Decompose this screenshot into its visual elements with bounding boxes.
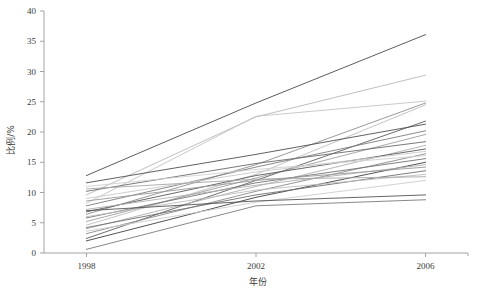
x-axis-tick-label: 1998 (77, 261, 96, 271)
y-axis-tick-label: 20 (27, 127, 37, 137)
x-axis-tick-label: 2006 (417, 261, 436, 271)
y-axis-tick-label: 0 (32, 248, 37, 258)
y-axis-tick-label: 30 (27, 67, 37, 77)
y-axis-tick-label: 25 (27, 97, 37, 107)
x-axis-title: 年份 (249, 276, 267, 287)
chart-container: 0510152025303540 199820022006 比例/% 年份 (0, 0, 477, 295)
y-axis-tick-label: 10 (27, 188, 37, 198)
y-axis-tick-label: 35 (27, 36, 37, 46)
y-axis-tick-label: 15 (27, 157, 37, 167)
y-axis-tick-label: 5 (32, 218, 37, 228)
slopegraph-line-chart: 0510152025303540 199820022006 比例/% 年份 (0, 0, 477, 295)
y-axis-tick-label: 40 (27, 6, 37, 16)
y-axis-title: 比例/% (5, 125, 16, 155)
x-axis-tick-label: 2002 (247, 261, 265, 271)
chart-background (0, 0, 477, 295)
